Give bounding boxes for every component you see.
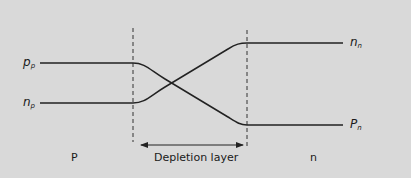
pn-junction-diagram: pp np nn Pn P Depletion layer n [0, 0, 411, 178]
electron-concentration-curve [40, 43, 343, 103]
depletion-layer-label: Depletion layer [154, 151, 238, 164]
label-pp: pp [23, 55, 35, 70]
n-region-label: n [310, 151, 317, 164]
label-nn: nn [350, 35, 362, 50]
hole-concentration-curve [40, 63, 343, 125]
label-np: np [23, 95, 35, 110]
p-region-label: P [71, 151, 78, 164]
label-pn: Pn [350, 117, 362, 132]
